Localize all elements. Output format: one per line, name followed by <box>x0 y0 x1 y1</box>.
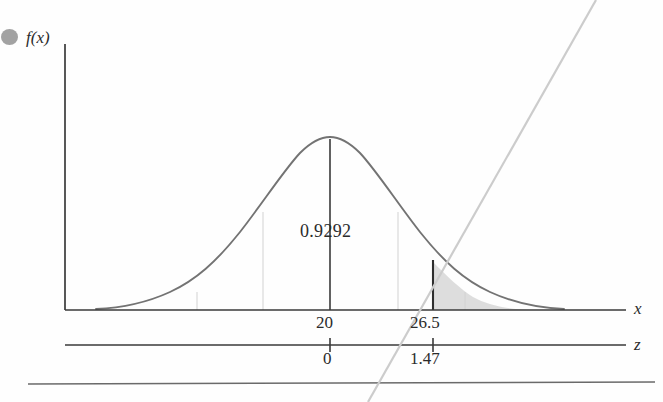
x-tick-label-cutoff: 26.5 <box>410 313 440 333</box>
normal-distribution-figure <box>0 0 663 402</box>
z-axis-label: z <box>634 335 641 355</box>
y-axis-label: f(x) <box>26 28 50 48</box>
z-tick-label-cutoff: 1.47 <box>410 349 440 369</box>
shaded-tail-region <box>433 262 530 310</box>
x-axis-label: x <box>634 299 642 319</box>
x-tick-label-mean: 20 <box>316 313 333 333</box>
area-probability-label: 0.9292 <box>300 221 351 242</box>
figure-page: f(x) x z 0.9292 20 26.5 0 1.47 <box>0 0 663 402</box>
z-tick-label-zero: 0 <box>323 349 332 369</box>
page-separator-rule <box>28 382 655 384</box>
scan-artifact-diagonal-line <box>368 0 596 402</box>
